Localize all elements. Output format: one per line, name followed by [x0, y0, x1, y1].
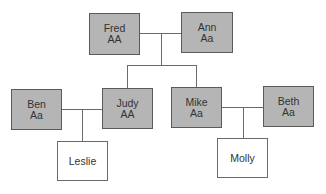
node-genotype: Aa [282, 107, 295, 118]
node-genotype: Aa [30, 110, 43, 121]
node-name: Ann [198, 22, 217, 33]
descent-line-fred-ann [161, 33, 162, 65]
node-name: Ben [27, 99, 46, 110]
node-genotype: Aa [190, 108, 203, 119]
node-leslie: Leslie [57, 141, 108, 181]
descent-line-mike [196, 65, 197, 87]
node-fred: Fred AA [89, 13, 140, 55]
node-beth: Beth Aa [263, 86, 314, 127]
node-name: Mike [185, 97, 207, 108]
node-genotype: Aa [201, 33, 214, 44]
sibling-bar-judy-mike [127, 65, 197, 66]
descent-line-molly [243, 107, 244, 138]
node-judy: Judy AA [102, 88, 153, 129]
node-name: Beth [278, 96, 300, 107]
node-mike: Mike Aa [171, 87, 222, 128]
node-genotype: AA [120, 109, 134, 120]
node-genotype: AA [107, 34, 121, 45]
node-name: Judy [116, 98, 138, 109]
node-ben: Ben Aa [11, 89, 62, 130]
family-tree-diagram: Fred AA Ann Aa Ben Aa Judy AA Mike Aa Be… [0, 0, 326, 194]
node-name: Molly [230, 153, 255, 164]
node-molly: Molly [217, 138, 268, 178]
node-ann: Ann Aa [181, 12, 233, 53]
descent-line-leslie [82, 109, 83, 141]
node-name: Leslie [69, 156, 96, 167]
descent-line-judy [127, 65, 128, 88]
